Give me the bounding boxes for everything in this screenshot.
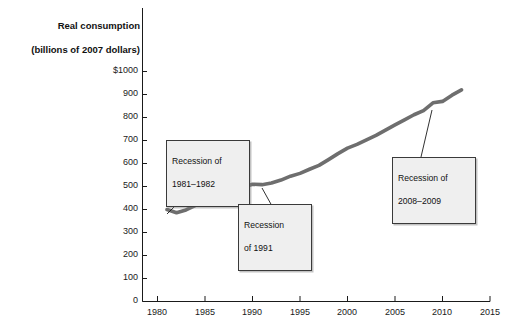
consumption-line-chart: Real consumption (billions of 2007 dolla… bbox=[0, 0, 525, 333]
y-tick-marks bbox=[143, 72, 148, 302]
x-tick-marks bbox=[158, 296, 491, 302]
annotation-recession-2008-2009: Recession of 2008–2009 bbox=[392, 157, 476, 224]
annotation-2008-line-1: Recession of bbox=[398, 173, 470, 185]
annotation-1991-line-2: of 1991 bbox=[244, 243, 306, 255]
annotation-recession-1981-1982: Recession of 1981–1982 bbox=[166, 140, 250, 207]
annotation-recession-1991: Recession of 1991 bbox=[238, 204, 312, 271]
leader-line-recession-2008-2009 bbox=[421, 110, 432, 157]
annotation-1981-line-1: Recession of bbox=[172, 156, 244, 168]
annotation-1991-line-1: Recession bbox=[244, 220, 306, 232]
annotation-2008-line-2: 2008–2009 bbox=[398, 196, 470, 208]
annotation-1981-line-2: 1981–1982 bbox=[172, 179, 244, 191]
